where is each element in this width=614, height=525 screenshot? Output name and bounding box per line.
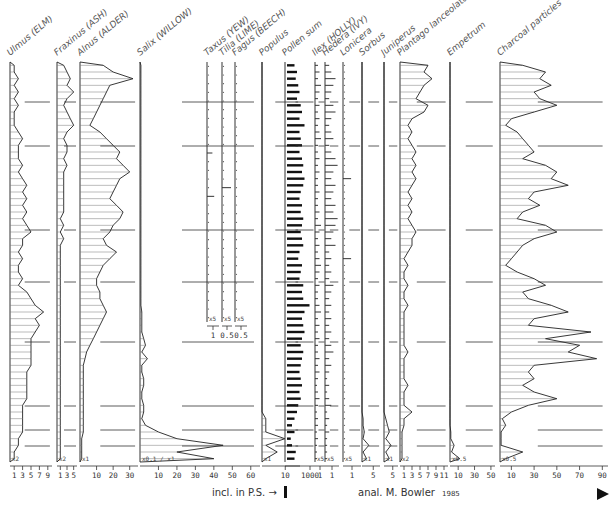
sample-dot	[208, 187, 209, 188]
sample-dot	[344, 385, 345, 386]
sample-dot	[344, 378, 345, 379]
sample-dot	[344, 85, 345, 86]
incl-in-ps-marker	[284, 486, 287, 498]
analysis-year: 1985	[442, 490, 460, 498]
x-tick-label: 50	[552, 471, 562, 480]
pollen-sum-bar	[287, 151, 300, 153]
sample-dot	[208, 109, 209, 110]
pollen-sum-bar	[287, 284, 303, 286]
pollen-sum-bar	[287, 64, 295, 66]
sample-dot	[344, 251, 345, 252]
exaggeration-label: x1	[264, 455, 272, 462]
x-tick-label: 0.5	[220, 331, 234, 340]
sample-dot	[236, 109, 237, 110]
sample-dot	[344, 411, 345, 412]
x-tick-label: 30	[125, 471, 135, 480]
x-tick-label: 30	[530, 471, 540, 480]
sample-dot	[208, 144, 209, 145]
column-ulmus: Ulmus (ELM)13579x2	[5, 13, 55, 480]
x-tick-label: 50	[486, 471, 496, 480]
pollen-sum-bar	[287, 317, 302, 319]
sample-dot	[236, 74, 237, 75]
sample-dot	[344, 365, 345, 366]
sample-dot	[208, 256, 209, 257]
x-tick-label: 1	[12, 471, 17, 480]
sample-dot	[236, 248, 237, 249]
next-page-arrow-icon[interactable]	[597, 488, 609, 500]
sample-dot	[344, 305, 345, 306]
curve-fraxinus	[57, 62, 74, 462]
pollen-sum-bar	[287, 104, 301, 106]
column-fagus: Fagus (BEECH)0.5x5	[230, 7, 288, 340]
sample-dot	[208, 300, 209, 301]
sample-dot	[344, 71, 345, 72]
sample-dot	[208, 213, 209, 214]
pollen-sum-bar	[287, 384, 302, 386]
curve-plantago-lanceolata	[400, 62, 432, 462]
sample-dot	[344, 438, 345, 439]
sample-dot	[208, 92, 209, 93]
sample-dot	[344, 91, 345, 92]
sample-dot	[223, 256, 224, 257]
sample-dot	[344, 125, 345, 126]
pollen-sum-bar	[287, 91, 300, 93]
exaggeration-label: x5	[209, 315, 217, 322]
pollen-sum-bar	[287, 211, 301, 213]
sample-dot	[208, 230, 209, 231]
sample-dot	[208, 178, 209, 179]
exaggeration-label: x5	[237, 315, 245, 322]
sample-dot	[236, 256, 237, 257]
x-tick-label: 5	[29, 471, 34, 480]
x-tick-label: 1	[402, 471, 407, 480]
sample-dot	[344, 331, 345, 332]
sample-dot	[208, 66, 209, 67]
exaggeration-label: x0.1 / x1	[142, 455, 175, 462]
sample-dot	[344, 358, 345, 359]
sample-dot	[236, 308, 237, 309]
sample-dot	[208, 161, 209, 162]
sample-dot	[236, 100, 237, 101]
exaggeration-label: x1	[82, 455, 90, 462]
x-tick-label: 30	[470, 471, 480, 480]
exaggeration-label: x2	[59, 455, 67, 462]
exaggeration-label: x5	[327, 455, 335, 462]
x-tick-label: 3	[410, 471, 415, 480]
columns-group: Ulmus (ELM)13579x2Fraxinus (ASH)135x2Aln…	[5, 0, 608, 480]
sample-dot	[223, 300, 224, 301]
x-tick-label: 1	[330, 471, 335, 480]
pollen-sum-bar	[287, 257, 298, 259]
sample-dot	[236, 196, 237, 197]
sample-dot	[344, 191, 345, 192]
sample-dot	[344, 145, 345, 146]
sample-dot	[223, 118, 224, 119]
sample-dot	[223, 92, 224, 93]
sample-dot	[344, 285, 345, 286]
sample-dot	[208, 170, 209, 171]
sample-dot	[344, 371, 345, 372]
sample-dot	[208, 248, 209, 249]
sample-dot	[344, 325, 345, 326]
sample-dot	[236, 126, 237, 127]
sample-dot	[208, 74, 209, 75]
pollen-sum-bar	[287, 411, 297, 413]
sample-dot	[344, 131, 345, 132]
sample-dot	[344, 398, 345, 399]
pollen-sum-bar	[287, 431, 295, 433]
sample-dot	[344, 338, 345, 339]
sample-dot	[344, 291, 345, 292]
sample-dot	[223, 308, 224, 309]
pollen-sum-bar	[287, 357, 302, 359]
sample-dot	[223, 161, 224, 162]
curve-populus	[262, 62, 285, 462]
pollen-sum-bar	[287, 164, 303, 166]
sample-dot	[223, 170, 224, 171]
x-tick-label: 5	[371, 471, 376, 480]
column-fraxinus: Fraxinus (ASH)135x2	[52, 7, 110, 480]
sample-dot	[236, 135, 237, 136]
x-tick-label: 20	[172, 471, 182, 480]
sample-dot	[344, 405, 345, 406]
sample-dot	[223, 66, 224, 67]
exaggeration-label: x5	[317, 455, 325, 462]
sample-dot	[223, 222, 224, 223]
footer-group: incl. in P.S. → anal. M. Bowler 1985	[212, 486, 609, 500]
